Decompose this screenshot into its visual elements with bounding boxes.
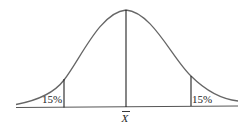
baseline-axis	[16, 106, 238, 108]
bell-curve	[16, 10, 238, 105]
mean-label: X	[121, 112, 130, 124]
normal-curve-figure: 15% 15% X	[0, 0, 249, 129]
left-tail-label: 15%	[42, 93, 62, 105]
right-tail-label: 15%	[192, 93, 212, 105]
